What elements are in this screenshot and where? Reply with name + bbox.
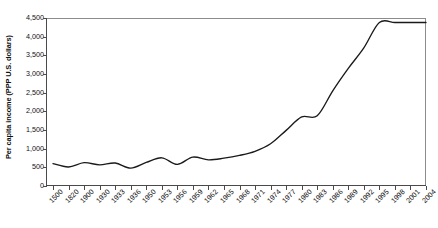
y-axis-tick-mark <box>43 37 47 38</box>
series-canvas <box>46 18 426 186</box>
y-axis-tick-label: 0 <box>14 182 44 190</box>
y-axis-tick-label: 3,000 <box>14 70 44 78</box>
plot-area <box>46 18 426 186</box>
y-axis-tick-mark <box>43 149 47 150</box>
y-axis-tick-label: 500 <box>14 163 44 171</box>
x-axis-tick-label-group: 1500182019001930193319361950195319561959… <box>46 188 428 228</box>
y-axis-tick-label-group: 4,5004,0003,5003,0002,5002,0001,5001,000… <box>14 13 44 187</box>
y-axis-tick-mark <box>43 18 47 19</box>
y-axis-tick-label: 3,500 <box>14 51 44 59</box>
y-axis-tick-mark <box>43 167 47 168</box>
y-axis-tick-label: 2,500 <box>14 89 44 97</box>
income-line-series <box>53 21 426 168</box>
y-axis-tick-label: 1,500 <box>14 126 44 134</box>
y-axis-tick-mark <box>43 93 47 94</box>
y-axis-tick-mark <box>43 130 47 131</box>
y-axis-tick-mark <box>43 55 47 56</box>
y-axis-tick-label: 4,500 <box>14 14 44 22</box>
y-axis-tick-mark <box>43 186 47 187</box>
y-axis-tick-mark <box>43 111 47 112</box>
y-axis-tick-label: 1,000 <box>14 145 44 153</box>
y-axis-tick-mark <box>43 74 47 75</box>
y-axis-tick-label: 4,000 <box>14 33 44 41</box>
y-axis-tick-label: 2,000 <box>14 107 44 115</box>
